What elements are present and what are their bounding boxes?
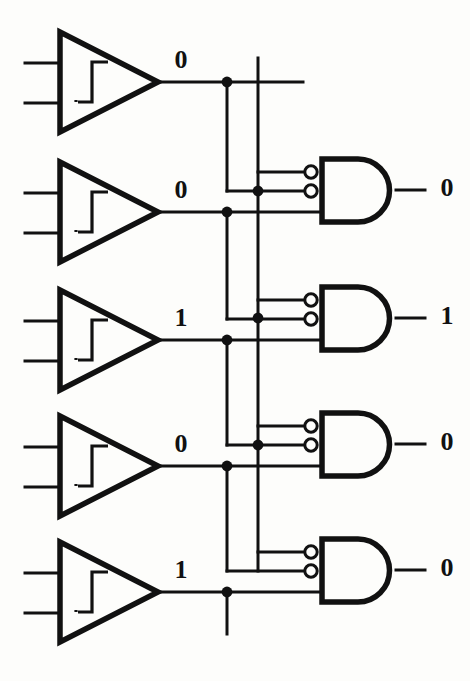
- and-gate-symbol: [322, 539, 390, 602]
- buffer-3-output-label: 1: [175, 303, 188, 332]
- inverter-bubble-icon: [305, 565, 317, 577]
- and-gate-symbol: [322, 413, 390, 476]
- and-gate-symbol: [322, 159, 390, 222]
- circuit-diagram-canvas: 0 0 1 0: [0, 0, 470, 681]
- schmitt-trigger-icon: [60, 162, 158, 262]
- junction-dot: [253, 440, 264, 451]
- junction-dot: [222, 587, 233, 598]
- inverter-bubble-icon: [305, 546, 317, 558]
- junction-dot: [253, 313, 264, 324]
- and-gate-4-group: 0: [227, 539, 454, 602]
- schmitt-trigger-icon: [60, 32, 158, 132]
- inverter-bubble-icon: [305, 294, 317, 306]
- and-gate-symbol: [322, 287, 390, 350]
- buffer-4-output-label: 0: [175, 429, 188, 458]
- buffer-stage-4: 0: [25, 416, 229, 516]
- buffer-stage-3: 1: [25, 290, 229, 390]
- buffer-2-output-label: 0: [175, 175, 188, 204]
- inverter-bubble-icon: [305, 313, 317, 325]
- junction-dot: [222, 77, 233, 88]
- schmitt-trigger-icon: [60, 290, 158, 390]
- buffer-stage-1: 0: [25, 32, 229, 132]
- schmitt-trigger-icon: [60, 542, 158, 642]
- schmitt-trigger-icon: [60, 416, 158, 516]
- junction-dot: [222, 461, 233, 472]
- gate-2-output-label: 1: [441, 301, 454, 330]
- inverter-bubble-icon: [305, 185, 317, 197]
- buffer-1-output-label: 0: [175, 45, 188, 74]
- gate-4-output-label: 0: [441, 553, 454, 582]
- logic-circuit-svg: 0 0 1 0: [0, 0, 470, 681]
- vertical-bus-group: [227, 58, 258, 634]
- buffer-stage-2: 0: [25, 162, 229, 262]
- junction-dot: [222, 207, 233, 218]
- buffer-stage-5: 1: [25, 542, 229, 642]
- gate-1-output-label: 0: [441, 173, 454, 202]
- buffer-5-output-label: 1: [175, 555, 188, 584]
- inverter-bubble-icon: [305, 420, 317, 432]
- junction-dot: [253, 186, 264, 197]
- gate-3-output-label: 0: [441, 427, 454, 456]
- inverter-bubble-icon: [305, 166, 317, 178]
- junction-dot: [222, 335, 233, 346]
- inverter-bubble-icon: [305, 439, 317, 451]
